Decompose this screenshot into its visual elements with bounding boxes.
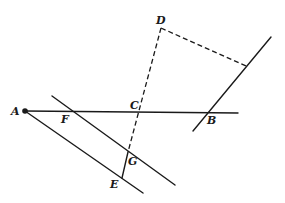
- label-C: C: [130, 99, 139, 112]
- dashed-D-to-line: [161, 28, 246, 66]
- dashed-DG: [128, 28, 161, 152]
- label-F: F: [60, 113, 70, 126]
- label-D: D: [155, 14, 166, 27]
- geometry-diagram: A D C F B G E: [0, 0, 285, 203]
- point-A-dot: [22, 108, 28, 114]
- label-A: A: [10, 105, 20, 118]
- label-B: B: [206, 114, 216, 127]
- label-G: G: [128, 155, 137, 168]
- line-through-B: [193, 37, 271, 131]
- label-E: E: [109, 178, 119, 191]
- line-A-lower: [25, 111, 143, 193]
